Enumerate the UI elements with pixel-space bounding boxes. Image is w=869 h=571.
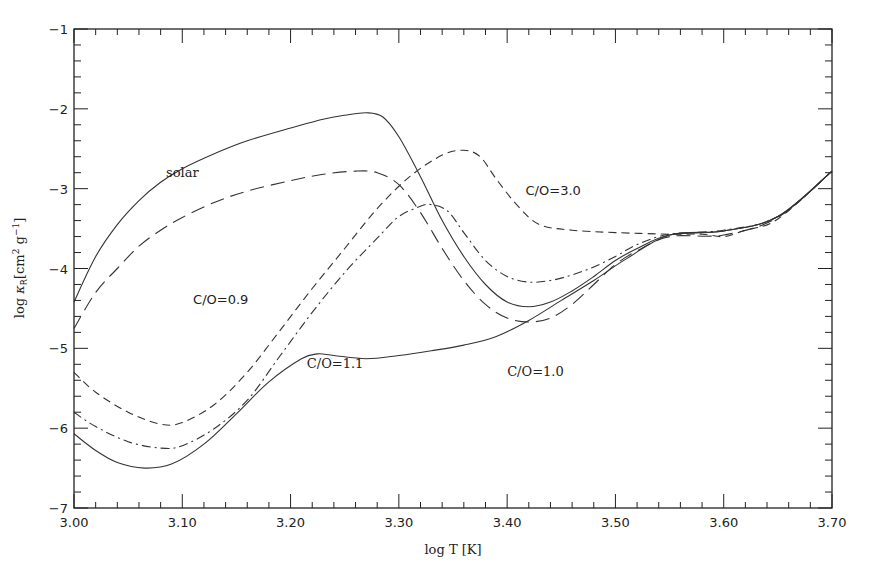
- y-axis-title-prefix: log: [12, 294, 27, 318]
- x-tick-label: 3.30: [384, 515, 413, 530]
- x-tick-label: 3.60: [709, 515, 738, 530]
- x-tick-label: 3.20: [276, 515, 305, 530]
- curve-c-o-0-9: [74, 171, 832, 329]
- curve-c-o-1-0: [74, 171, 832, 468]
- svg-text:log κR[cm2 g−1]: log κR[cm2 g−1]: [11, 218, 29, 319]
- axis-ticks: [74, 29, 832, 508]
- y-tick-label: −5: [49, 341, 68, 356]
- annotation-solar: solar: [166, 165, 199, 180]
- curve-c-o-3-0: [74, 150, 832, 425]
- annotation-c-o-3-0: C/O=3.0: [526, 183, 581, 198]
- x-tick-label: 3.40: [493, 515, 522, 530]
- y-tick-label: −7: [49, 501, 68, 516]
- x-tick-label: 3.00: [60, 515, 89, 530]
- plot-frame: [74, 29, 832, 508]
- y-tick-labels: −1−2−3−4−5−6−7: [49, 22, 68, 516]
- x-axis-title: log T [K]: [424, 542, 481, 557]
- annotation-c-o-0-9: C/O=0.9: [193, 292, 248, 307]
- curve-solar: [74, 113, 832, 307]
- curve-c-o-1-1: [74, 171, 832, 448]
- curve-annotations: solarC/O=0.9C/O=1.1C/O=1.0C/O=3.0: [166, 165, 581, 380]
- y-axis-title-sup2: −1: [11, 223, 21, 236]
- y-axis-title-kappa: κ: [12, 285, 27, 295]
- annotation-c-o-1-0: C/O=1.0: [507, 364, 564, 379]
- annotation-c-o-1-1: C/O=1.1: [307, 356, 364, 371]
- y-tick-label: −4: [49, 262, 68, 277]
- x-tick-label: 3.50: [601, 515, 630, 530]
- y-axis-title-close: ]: [12, 218, 27, 223]
- x-tick-labels: 3.003.103.203.303.403.503.603.70: [60, 515, 847, 530]
- opacity-chart: 3.003.103.203.303.403.503.603.70 −1−2−3−…: [0, 0, 869, 571]
- y-tick-label: −6: [49, 421, 68, 436]
- y-tick-label: −1: [49, 22, 68, 37]
- y-tick-label: −3: [49, 182, 68, 197]
- y-axis-title-mid: g: [12, 236, 27, 248]
- y-axis-title: log κR[cm2 g−1]: [11, 218, 29, 319]
- y-axis-title-bracket: [cm: [12, 254, 27, 279]
- y-tick-label: −2: [49, 102, 68, 117]
- x-tick-label: 3.10: [168, 515, 197, 530]
- x-tick-label: 3.70: [818, 515, 847, 530]
